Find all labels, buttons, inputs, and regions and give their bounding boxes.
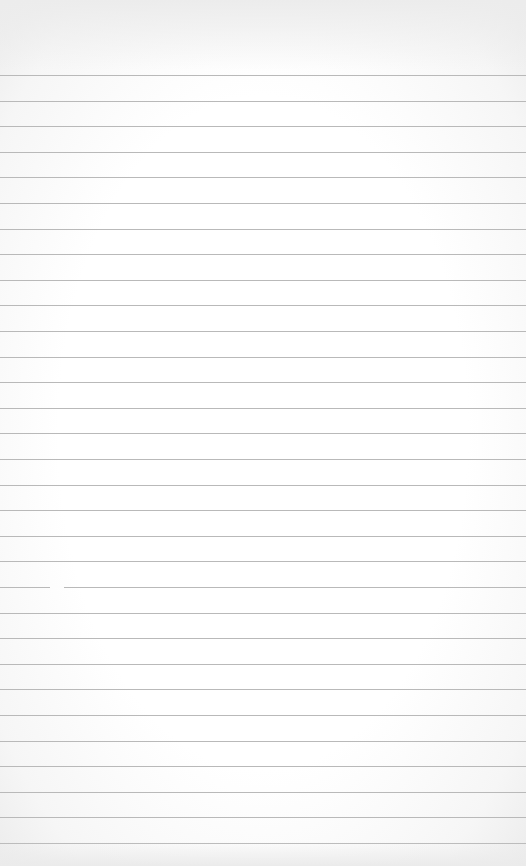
ruled-line bbox=[0, 638, 526, 639]
ruled-line bbox=[0, 766, 526, 767]
ruled-line bbox=[0, 613, 526, 614]
ruled-line bbox=[0, 433, 526, 434]
ruled-line bbox=[0, 587, 526, 588]
ruled-line bbox=[0, 382, 526, 383]
ruled-line bbox=[0, 101, 526, 102]
ruled-line bbox=[0, 715, 526, 716]
lined-paper bbox=[0, 0, 526, 866]
ruled-line bbox=[0, 843, 526, 844]
ruled-line bbox=[0, 229, 526, 230]
line-break-mark bbox=[50, 586, 64, 588]
ruled-line bbox=[0, 331, 526, 332]
ruled-line bbox=[0, 485, 526, 486]
ruled-line bbox=[0, 459, 526, 460]
ruled-line bbox=[0, 741, 526, 742]
ruled-line bbox=[0, 536, 526, 537]
ruled-line bbox=[0, 510, 526, 511]
ruled-line bbox=[0, 177, 526, 178]
ruled-line bbox=[0, 203, 526, 204]
ruled-line bbox=[0, 75, 526, 76]
ruled-line bbox=[0, 152, 526, 153]
ruled-line bbox=[0, 254, 526, 255]
ruled-line bbox=[0, 689, 526, 690]
ruled-line bbox=[0, 792, 526, 793]
ruled-line bbox=[0, 357, 526, 358]
ruled-line bbox=[0, 664, 526, 665]
ruled-line bbox=[0, 280, 526, 281]
ruled-line bbox=[0, 817, 526, 818]
ruled-line bbox=[0, 305, 526, 306]
ruled-line bbox=[0, 408, 526, 409]
ruled-line bbox=[0, 561, 526, 562]
ruled-line bbox=[0, 126, 526, 127]
